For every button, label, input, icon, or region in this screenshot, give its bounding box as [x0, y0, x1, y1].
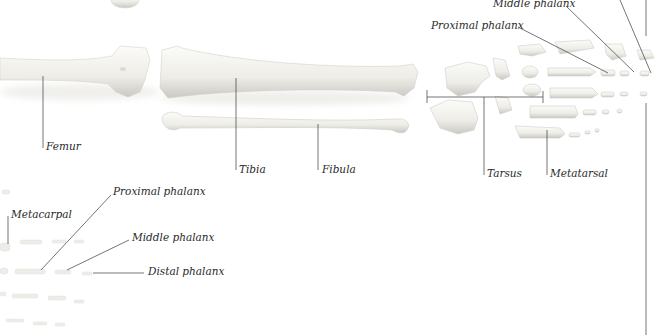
femur-label: Femur	[46, 140, 81, 152]
tibia-label: Tibia	[239, 163, 266, 175]
foot-middle-phalanx-label: Middle phalanx	[493, 0, 576, 9]
foot-proximal-phalanx-label: Proximal phalanx	[431, 19, 524, 31]
fibula-label: Fibula	[322, 163, 356, 175]
hand-proximal-phalanx-leader-line	[41, 195, 111, 270]
metatarsal-label: Metatarsal	[550, 167, 608, 179]
femur-bone	[0, 46, 160, 100]
foot-middle-phalanx-leader-line	[566, 6, 634, 72]
hand-middle-phalanx-label: Middle phalanx	[132, 231, 215, 243]
tibia-bone	[160, 46, 418, 105]
hand-middle-phalanx-leader-line	[67, 240, 129, 270]
hand-proximal-phalanx-label: Proximal phalanx	[113, 185, 206, 197]
fibula-bone	[162, 112, 409, 133]
foot-bones	[430, 40, 654, 138]
hand-distal-phalanx-label: Distal phalanx	[148, 265, 224, 277]
bone-diagram: Femur Tibia Fibula Tarsus Metatarsal Pro…	[0, 0, 656, 335]
tarsus-label: Tarsus	[487, 167, 522, 179]
hand-metacarpal-label: Metacarpal	[11, 208, 72, 220]
patella-bone	[111, 0, 139, 8]
